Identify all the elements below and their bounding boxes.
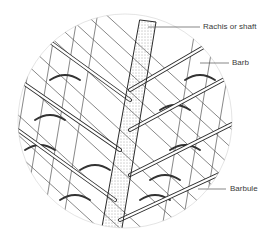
label-barbule: Barbule: [230, 184, 258, 193]
label-rachis: Rachis or shaft: [203, 22, 256, 31]
feather-diagram: Rachis or shaft Barb Barbule: [0, 0, 272, 240]
feather-illustration: [0, 0, 272, 240]
label-barb: Barb: [232, 58, 249, 67]
